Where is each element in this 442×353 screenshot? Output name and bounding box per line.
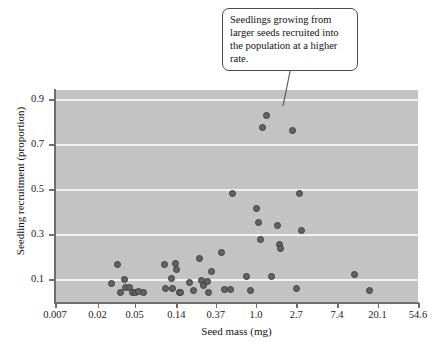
y-tick-mark (49, 99, 54, 101)
x-tick-label: 0.05 (113, 309, 157, 320)
gridline (55, 189, 418, 191)
x-tick-label: 0.37 (194, 309, 238, 320)
data-point (186, 279, 193, 286)
data-point (243, 273, 250, 280)
x-tick-mark (176, 303, 178, 308)
x-tick-label: 20.1 (356, 309, 400, 320)
x-tick-mark (337, 303, 339, 308)
gridline (55, 234, 418, 236)
data-point (227, 286, 234, 293)
data-point (255, 219, 262, 226)
x-tick-label: 0.007 (33, 309, 77, 320)
y-tick-mark (49, 144, 54, 146)
y-axis-line (54, 89, 56, 303)
x-tick-mark (378, 303, 380, 308)
x-tick-mark (216, 303, 218, 308)
callout-text: Seedlings growing from larger seeds recr… (230, 14, 339, 64)
y-tick-mark (49, 234, 54, 236)
data-point (366, 287, 373, 294)
x-tick-label: 0.14 (154, 309, 198, 320)
x-tick-mark (296, 303, 298, 308)
y-tick-mark (49, 279, 54, 281)
x-axis-line (54, 302, 419, 304)
data-point (108, 280, 115, 287)
data-point (253, 205, 260, 212)
data-point (289, 127, 296, 134)
x-tick-mark (418, 303, 420, 308)
x-tick-label: 54.6 (396, 309, 440, 320)
x-tick-label: 1.0 (234, 309, 278, 320)
data-point (190, 287, 197, 294)
x-tick-label: 7.4 (315, 309, 359, 320)
gridline (55, 99, 418, 101)
x-axis-title: Seed mass (mg) (55, 325, 418, 337)
data-point (218, 249, 225, 256)
x-tick-mark (256, 303, 258, 308)
x-tick-label: 2.7 (274, 309, 318, 320)
data-point (173, 266, 180, 273)
data-point (268, 273, 275, 280)
data-point (277, 245, 284, 252)
x-tick-mark (55, 303, 57, 308)
callout-annotation: Seedlings growing from larger seeds recr… (222, 8, 358, 71)
data-point (208, 268, 215, 275)
gridline (55, 144, 418, 146)
data-point (204, 278, 211, 285)
data-point (293, 285, 300, 292)
x-tick-mark (135, 303, 137, 308)
data-point (259, 124, 266, 131)
y-axis-title: Seedling recruitment (proportion) (14, 75, 26, 287)
scatter-plot-figure: 0.90.70.50.30.1 0.0070.020.050.140.371.0… (0, 0, 442, 353)
plot-area (55, 90, 418, 302)
x-tick-mark (98, 303, 100, 308)
y-tick-mark (49, 189, 54, 191)
